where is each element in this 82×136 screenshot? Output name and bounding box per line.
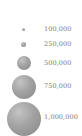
map-legend: 100,000 250,000 500,000 750,000 1,000,00… xyxy=(0,0,82,136)
legend-symbol-250000 xyxy=(21,42,26,47)
legend-label-500000: 500,000 xyxy=(44,59,72,67)
legend-symbol-750000 xyxy=(12,75,36,99)
legend-symbol-500000 xyxy=(17,56,31,70)
legend-label-250000: 250,000 xyxy=(44,40,72,48)
legend-label-1000000: 1,000,000 xyxy=(44,113,78,121)
legend-label-750000: 750,000 xyxy=(44,82,72,90)
legend-symbol-100000 xyxy=(22,28,25,31)
legend-label-100000: 100,000 xyxy=(44,25,72,33)
legend-symbol-1000000 xyxy=(7,102,41,136)
